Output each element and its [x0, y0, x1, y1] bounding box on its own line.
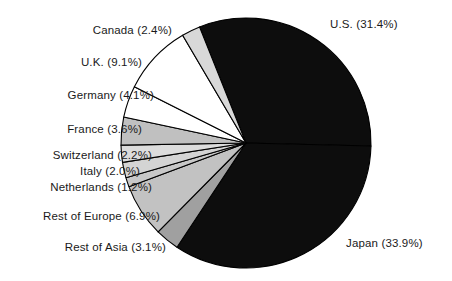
pie-label-germany: Germany (4.1%) [0, 89, 154, 102]
pie-label-rest-of-asia: Rest of Asia (3.1%) [0, 241, 166, 254]
pie-label-italy: Italy (2.0%) [0, 165, 140, 178]
pie-chart-figure: U.S. (31.4%)Canada (2.4%)U.K. (9.1%)Germ… [0, 0, 452, 281]
pie-label-canada: Canada (2.4%) [0, 24, 172, 37]
pie-label-netherlands: Netherlands (1.2%) [0, 181, 152, 194]
pie-label-rest-of-europe: Rest of Europe (6.9%) [0, 210, 160, 223]
pie-slice-group [121, 18, 371, 268]
pie-label-u-k: U.K. (9.1%) [0, 56, 142, 69]
pie-label-switzerland: Switzerland (2.2%) [0, 149, 152, 162]
pie-label-france: France (3.6%) [0, 123, 142, 136]
pie-label-u-s: U.S. (31.4%) [330, 18, 398, 31]
pie-label-japan: Japan (33.9%) [346, 237, 423, 250]
